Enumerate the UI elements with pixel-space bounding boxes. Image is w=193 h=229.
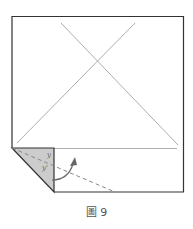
angle-label-y-prime: y': [41, 164, 48, 172]
crease-diagonal-1: [61, 23, 178, 145]
fold-arrow-icon: [52, 164, 73, 180]
arrow-head-icon: [70, 157, 77, 166]
crease-diagonal-2: [17, 23, 135, 143]
valley-fold-line: [12, 148, 115, 192]
figure-caption: 圖 9: [0, 203, 193, 219]
origami-fold-diagram: y y': [0, 0, 193, 229]
